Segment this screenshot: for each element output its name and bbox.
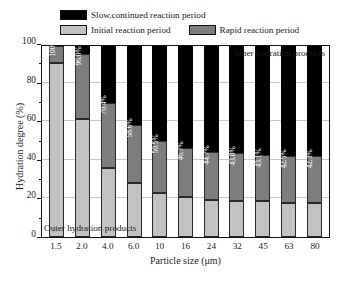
segment-initial — [204, 200, 219, 237]
x-axis-tick-label: 80 — [308, 238, 323, 254]
x-axis-tick-label: 32 — [230, 238, 245, 254]
segment-initial — [49, 63, 64, 237]
segment-rapid — [255, 155, 270, 202]
chart-legend: Slow,continued reaction period Initial r… — [60, 8, 320, 38]
legend-label-rapid: Rapid reaction period — [220, 25, 300, 35]
legend-label-initial: Initial reaction period — [91, 25, 171, 35]
segment-rapid — [101, 103, 116, 169]
annotation-outer-hydration: Outer hydration products — [44, 223, 136, 233]
x-axis-tick-label: 2.0 — [74, 238, 89, 254]
bar-group: 100%96.0%70.4%58.6%50.5%46.7%44.7%43.8%4… — [42, 46, 329, 237]
legend-swatch-rapid-icon — [189, 25, 216, 35]
bar-6.0[interactable]: 58.6% — [127, 46, 142, 237]
segment-rapid — [281, 156, 296, 203]
segment-initial — [152, 193, 167, 237]
bar-10[interactable]: 50.5% — [152, 46, 167, 237]
x-axis-tick-label: 63 — [282, 238, 297, 254]
segment-slow-continued — [307, 46, 322, 156]
x-axis-tick-label: 24 — [204, 238, 219, 254]
x-axis-ticks: 1.52.04.06.010162432456380 — [41, 238, 330, 254]
bar-63[interactable]: 42.5% — [281, 46, 296, 237]
y-axis-tick-label: 0 — [31, 229, 36, 239]
segment-initial — [75, 119, 90, 237]
legend-row-bottom: Initial reaction period Rapid reaction p… — [60, 23, 320, 36]
x-axis-tick-label: 4.0 — [100, 238, 115, 254]
y-axis-title: Hydration degree (%) — [14, 77, 25, 217]
legend-item-slow: Slow,continued reaction period — [60, 10, 205, 20]
segment-rapid — [152, 141, 167, 194]
bar-45[interactable]: 43.1% — [255, 46, 270, 237]
x-axis-tick-label: 6.0 — [126, 238, 141, 254]
legend-row-top: Slow,continued reaction period — [60, 8, 320, 21]
x-axis-tick-label: 45 — [256, 238, 271, 254]
bar-2.0[interactable]: 96.0% — [75, 46, 90, 237]
x-axis-tick-label: 10 — [152, 238, 167, 254]
x-axis-tick-label: 1.5 — [48, 238, 63, 254]
segment-slow-continued — [281, 46, 296, 156]
segment-slow-continued — [101, 46, 116, 103]
segment-slow-continued — [229, 46, 244, 153]
segment-rapid — [307, 156, 322, 203]
y-axis-tick-label: 40 — [27, 152, 36, 162]
x-axis-tick-label: 16 — [178, 238, 193, 254]
y-axis-tick-label: 100 — [22, 36, 36, 46]
legend-label-slow: Slow,continued reaction period — [91, 10, 205, 20]
segment-rapid — [49, 46, 64, 63]
segment-rapid — [178, 148, 193, 197]
segment-rapid — [229, 153, 244, 201]
segment-slow-continued — [127, 46, 142, 125]
segment-initial — [255, 201, 270, 237]
segment-slow-continued — [75, 46, 90, 54]
bar-16[interactable]: 46.7% — [178, 46, 193, 237]
chart-figure: Slow,continued reaction period Initial r… — [0, 0, 338, 290]
segment-initial — [178, 197, 193, 237]
segment-rapid — [204, 152, 219, 200]
segment-slow-continued — [204, 46, 219, 152]
legend-item-initial: Initial reaction period — [60, 25, 171, 35]
x-axis-title: Particle size (μm) — [41, 255, 330, 266]
legend-swatch-initial-icon — [60, 25, 87, 35]
y-axis-tick-label: 80 — [27, 75, 36, 85]
bar-80[interactable]: 42.3% — [307, 46, 322, 237]
segment-rapid — [75, 54, 90, 119]
segment-rapid — [127, 125, 142, 183]
segment-slow-continued — [178, 46, 193, 148]
bar-32[interactable]: 43.8% — [229, 46, 244, 237]
legend-swatch-slow-icon — [60, 10, 87, 20]
bar-24[interactable]: 44.7% — [204, 46, 219, 237]
segment-slow-continued — [152, 46, 167, 141]
bar-1.5[interactable]: 100% — [49, 46, 64, 237]
bar-4.0[interactable]: 70.4% — [101, 46, 116, 237]
y-axis: Hydration degree (%) 020406080100 — [0, 45, 41, 238]
y-axis-tick-label: 60 — [27, 113, 36, 123]
segment-initial — [281, 203, 296, 237]
annotation-inner-hydration: Inner hydration products — [234, 48, 325, 58]
legend-item-rapid: Rapid reaction period — [189, 25, 300, 35]
y-axis-tick-label: 20 — [27, 190, 36, 200]
segment-initial — [229, 201, 244, 237]
plot-area: 100%96.0%70.4%58.6%50.5%46.7%44.7%43.8%4… — [41, 45, 330, 238]
segment-initial — [307, 203, 322, 237]
segment-slow-continued — [255, 46, 270, 155]
